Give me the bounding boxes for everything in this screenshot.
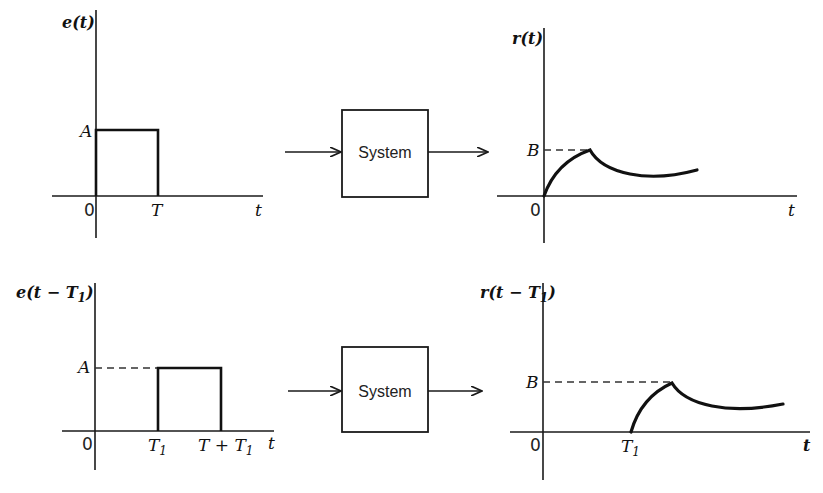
- pulse-start-label: T1: [148, 435, 167, 458]
- amplitude-label: A: [78, 121, 92, 141]
- bottom-input-plot: e(t − T1) A 0 T1 T + T1 t: [16, 283, 275, 470]
- top-output-plot: r(t) B 0 t: [497, 28, 797, 243]
- pulse-end-label: T: [151, 200, 164, 220]
- top-system-block: System: [285, 110, 488, 197]
- pulse-end-label: T + T1: [198, 435, 253, 458]
- origin-label: 0: [530, 200, 541, 220]
- origin-label: 0: [82, 434, 93, 454]
- top-input-plot: e(t) A 0 T t: [52, 10, 263, 238]
- time-invariance-diagram: e(t) A 0 T t System r(t) B 0 t e(t − T1)…: [0, 0, 823, 493]
- peak-label: B: [526, 140, 540, 160]
- x-axis-label: t: [803, 436, 811, 455]
- y-axis-label: e(t − T1): [16, 283, 94, 305]
- x-axis-label: t: [788, 200, 795, 220]
- bottom-output-plot: r(t − T1) B 0 T1 t: [480, 283, 811, 480]
- x-axis-label: t: [268, 433, 275, 453]
- y-axis-label: e(t): [62, 13, 95, 32]
- system-label: System: [358, 144, 411, 161]
- origin-label: 0: [530, 435, 541, 455]
- shift-label: T1: [621, 436, 640, 459]
- y-axis-label: r(t): [512, 29, 543, 48]
- amplitude-label: A: [76, 357, 90, 377]
- bottom-system-block: System: [288, 347, 482, 432]
- shifted-rectangular-pulse: [158, 368, 221, 431]
- rectangular-pulse: [96, 130, 158, 196]
- response-curve: [544, 150, 697, 196]
- peak-label: B: [525, 372, 539, 392]
- origin-label: 0: [84, 200, 95, 220]
- system-label: System: [358, 383, 411, 400]
- x-axis-label: t: [255, 200, 262, 220]
- y-axis-label: r(t − T1): [480, 283, 556, 305]
- shifted-response-curve: [631, 383, 783, 432]
